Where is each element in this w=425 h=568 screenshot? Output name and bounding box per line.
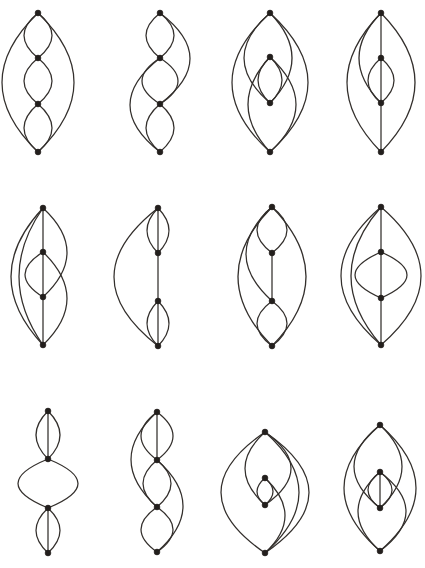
graph-edge (265, 432, 291, 505)
graph-vertex (262, 429, 268, 435)
graph-edge (341, 207, 381, 345)
graph-edge (18, 459, 48, 508)
graph-edge (19, 208, 43, 345)
graph-vertex (269, 250, 275, 256)
graph-edge (43, 252, 67, 345)
graph-vertex (378, 149, 384, 155)
graph-edge (380, 425, 416, 551)
graph-vertex (378, 295, 384, 301)
graph-edge (143, 460, 157, 507)
graph-vertex (377, 422, 383, 428)
graph-edge (142, 58, 160, 104)
multigraph-graph-5 (11, 205, 67, 348)
graph-edge (354, 425, 380, 508)
graph-edge (146, 13, 160, 58)
graph-vertex (269, 298, 275, 304)
graph-vertex (155, 205, 161, 211)
graph-edge (38, 13, 74, 152)
graph-vertex (378, 342, 384, 348)
graph-vertex (378, 100, 384, 106)
graph-vertex (262, 475, 268, 481)
graph-vertex (45, 550, 51, 556)
graph-vertex (35, 149, 41, 155)
graph-vertex (378, 55, 384, 61)
graph-edge (2, 13, 38, 152)
graph-edge (38, 58, 52, 104)
graph-edge (36, 508, 48, 553)
graph-edge (257, 478, 265, 505)
graph-edge (158, 301, 169, 346)
graph-edge (157, 412, 173, 460)
graph-vertex (267, 54, 273, 60)
graph-vertex (267, 10, 273, 16)
graph-edge (24, 13, 38, 58)
graph-edge (246, 207, 272, 301)
graph-vertex (378, 204, 384, 210)
graph-edge (48, 459, 78, 508)
graph-edge (270, 13, 308, 152)
graph-vertex (45, 456, 51, 462)
graph-edge (270, 57, 296, 152)
graph-edge (157, 460, 171, 507)
graph-vertex (262, 550, 268, 556)
graph-vertex (35, 10, 41, 16)
graph-vertex (154, 504, 160, 510)
graph-edge (272, 301, 287, 346)
graph-edge (380, 472, 406, 551)
graph-vertex (378, 249, 384, 255)
graph-vertex (40, 205, 46, 211)
graph-edge (347, 13, 381, 152)
multigraph-grid (0, 0, 425, 568)
graph-vertex (267, 100, 273, 106)
graph-vertex (154, 409, 160, 415)
graph-vertex (35, 55, 41, 61)
multigraph-graph-1 (2, 10, 74, 155)
graph-edge (160, 13, 174, 58)
graph-vertex (155, 298, 161, 304)
graph-vertex (377, 505, 383, 511)
multigraph-graph-6 (114, 205, 169, 349)
graph-vertex (157, 55, 163, 61)
graph-edge (24, 58, 38, 104)
graph-vertex (378, 10, 384, 16)
graph-vertex (40, 294, 46, 300)
graph-edge (248, 57, 270, 152)
multigraph-graph-10 (131, 409, 183, 555)
graph-vertex (155, 343, 161, 349)
graph-edge (141, 507, 157, 552)
graph-edge (221, 432, 265, 553)
graph-edge (381, 13, 415, 152)
graph-edge (381, 252, 407, 298)
graph-edge (131, 412, 157, 507)
graph-edge (11, 208, 43, 345)
graph-edge (380, 472, 392, 508)
multigraph-graph-2 (130, 10, 190, 155)
graph-vertex (154, 549, 160, 555)
graph-edge (238, 207, 272, 346)
graph-edge (270, 13, 292, 103)
graph-edge (368, 472, 380, 508)
graph-edge (158, 208, 169, 253)
graph-edge (157, 507, 173, 552)
multigraph-graph-12 (344, 422, 416, 554)
graph-edge (381, 207, 421, 345)
graph-vertex (157, 101, 163, 107)
graph-edge (38, 104, 52, 152)
graph-edge (244, 13, 270, 103)
graph-edge (146, 104, 160, 152)
graph-edge (24, 104, 38, 152)
multigraph-graph-7 (238, 204, 306, 349)
graph-vertex (269, 343, 275, 349)
graph-vertex (377, 469, 383, 475)
graph-edge (43, 208, 67, 297)
multigraph-graph-8 (341, 204, 421, 348)
graph-vertex (267, 149, 273, 155)
graph-edge (265, 432, 309, 553)
graph-vertex (40, 249, 46, 255)
graph-vertex (35, 101, 41, 107)
graph-edge (147, 208, 158, 253)
graph-edge (36, 411, 48, 459)
figure-root (0, 0, 425, 568)
multigraph-graph-11 (221, 429, 309, 556)
graph-edge (355, 252, 381, 298)
